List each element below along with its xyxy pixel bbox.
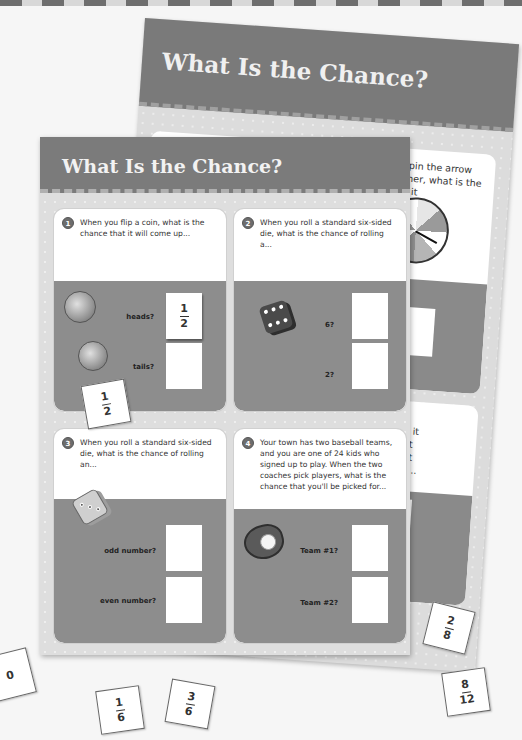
answer-label: 2? [254, 371, 334, 379]
question-number-badge: 1 [62, 217, 74, 229]
answer-label: 6? [254, 321, 334, 329]
answer-box-team1[interactable] [352, 525, 388, 571]
question-card-3: 3 When you roll a standard six-sided die… [54, 429, 226, 643]
answer-box-even[interactable] [166, 577, 202, 623]
question-text: When you roll a standard six-sided die, … [260, 218, 392, 249]
back-worksheet-header: What Is the Chance? [139, 18, 519, 132]
fraction-tile-3-6[interactable]: 3 6 [165, 679, 216, 730]
answer-label: tails? [74, 363, 154, 371]
answer-panel: 6? 2? [234, 281, 406, 411]
question-card-1: 1 When you flip a coin, what is the chan… [54, 209, 226, 411]
answer-box-team2[interactable] [352, 577, 388, 623]
back-worksheet-title: What Is the Chance? [161, 47, 517, 99]
answer-label: odd number? [76, 547, 156, 555]
question-text: When you roll a standard six-sided die, … [80, 438, 212, 469]
question-1: 1 When you flip a coin, what is the chan… [54, 209, 226, 239]
answer-panel: heads? tails? 1 2 [54, 281, 226, 411]
checkered-border [0, 0, 522, 6]
fraction-tile-1-2[interactable]: 1 2 [81, 379, 132, 430]
answer-label: even number? [76, 597, 156, 605]
answer-box-heads[interactable]: 1 2 [166, 293, 202, 339]
question-number-badge: 3 [62, 437, 74, 449]
fraction-tile-8-12[interactable]: 8 12 [441, 667, 491, 717]
answer-panel: Team #1? Team #2? [234, 509, 406, 643]
answer-label: heads? [74, 313, 154, 321]
question-card-2: 2 When you roll a standard six-sided die… [234, 209, 406, 411]
question-3: 3 When you roll a standard six-sided die… [54, 429, 226, 470]
die-icon [71, 488, 109, 526]
answer-box-6[interactable] [352, 293, 388, 339]
number-tile-0[interactable]: 0 [0, 647, 37, 702]
answer-label: Team #1? [258, 547, 338, 555]
answer-label: Team #2? [258, 599, 338, 607]
answer-box-2[interactable] [352, 343, 388, 389]
baseball-glove-icon [240, 520, 287, 563]
question-card-4: 4 Your town has two baseball teams, and … [234, 429, 406, 643]
question-text: When you flip a coin, what is the chance… [80, 218, 204, 238]
question-2: 2 When you roll a standard six-sided die… [234, 209, 406, 250]
worksheet-title: What Is the Chance? [62, 155, 410, 177]
answer-box-tails[interactable] [166, 343, 202, 389]
question-text: Your town has two baseball teams, and yo… [260, 438, 392, 491]
die-icon [258, 299, 293, 334]
question-number-badge: 4 [242, 437, 254, 449]
question-4: 4 Your town has two baseball teams, and … [234, 429, 406, 492]
answer-panel: odd number? even number? [54, 499, 226, 643]
worksheet-header: What Is the Chance? [40, 137, 410, 193]
fraction-tile-1-6[interactable]: 1 6 [95, 685, 145, 735]
question-number-badge: 2 [242, 217, 254, 229]
fraction-tile[interactable]: 1 2 [166, 293, 202, 339]
answer-box-odd[interactable] [166, 525, 202, 571]
